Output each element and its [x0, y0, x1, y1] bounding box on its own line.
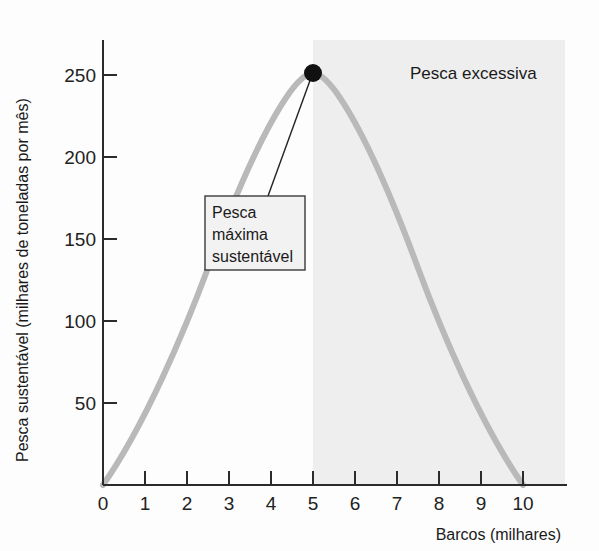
x-tick-label-2: 2	[182, 493, 193, 514]
x-tick-label-1: 1	[140, 493, 151, 514]
x-tick-label-7: 7	[392, 493, 403, 514]
x-axis-title: Barcos (milhares)	[436, 526, 561, 543]
msy-callout-line-1: Pesca	[212, 204, 257, 221]
x-tick-label-4: 4	[266, 493, 277, 514]
sustainable-catch-chart: 250 200 150 100 50 0 1 2 3 4 5 6 7 8 9 1…	[0, 0, 599, 551]
overfishing-region-label: Pesca excessiva	[410, 64, 537, 83]
x-tick-label-3: 3	[224, 493, 235, 514]
y-axis-title: Pesca sustentável (milhares de toneladas…	[14, 98, 31, 462]
x-tick-label-10: 10	[512, 493, 533, 514]
msy-callout-line-3: sustentável	[212, 248, 293, 265]
y-tick-label-50: 50	[75, 393, 96, 414]
x-tick-label-0: 0	[98, 493, 109, 514]
y-tick-label-100: 100	[64, 311, 96, 332]
x-tick-label-8: 8	[434, 493, 445, 514]
overfishing-shaded-region	[313, 40, 565, 485]
y-tick-label-150: 150	[64, 229, 96, 250]
msy-callout-line-2: máxima	[212, 226, 268, 243]
msy-point-marker	[304, 64, 322, 82]
y-tick-label-200: 200	[64, 147, 96, 168]
x-tick-label-9: 9	[476, 493, 487, 514]
x-tick-label-5: 5	[308, 493, 319, 514]
y-tick-label-250: 250	[64, 65, 96, 86]
chart-figure: 250 200 150 100 50 0 1 2 3 4 5 6 7 8 9 1…	[0, 0, 599, 551]
x-tick-label-6: 6	[350, 493, 361, 514]
